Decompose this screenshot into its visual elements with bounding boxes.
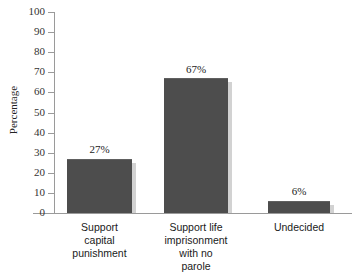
y-tick-mark-30	[48, 153, 54, 154]
category-label-support-life-imprisonment: Support life imprisonment with no parole	[146, 221, 246, 273]
y-tick-label-20: 20	[1, 167, 45, 178]
y-tick-90: 90	[0, 32, 54, 33]
y-tick-0: 0	[0, 213, 54, 214]
bar-support-capital-punishment	[67, 159, 132, 213]
y-tick-80: 80	[0, 52, 54, 53]
y-tick-mark-90	[48, 32, 54, 33]
y-tick-100: 100	[0, 12, 54, 13]
category-label-line: parole	[146, 260, 246, 273]
category-label-line: Undecided	[252, 221, 346, 234]
bar-value-1: 27%	[67, 143, 132, 155]
category-label-line: with no	[146, 247, 246, 260]
y-tick-mark-60	[48, 92, 54, 93]
y-axis-title: Percentage	[7, 55, 19, 165]
y-tick-10: 10	[0, 193, 54, 194]
plot-area: 100 90 80 70 60 50 40 30	[0, 0, 352, 277]
y-tick-mark-10	[48, 193, 54, 194]
y-tick-20: 20	[0, 173, 54, 174]
y-tick-label-10: 10	[1, 187, 45, 198]
category-label-line: capital	[49, 234, 150, 247]
category-label-line: imprisonment	[146, 234, 246, 247]
y-tick-label-90: 90	[1, 26, 45, 37]
bar-chart-screenshot: 100 90 80 70 60 50 40 30	[0, 0, 352, 277]
x-axis-line	[33, 213, 352, 214]
category-label-line: Support life	[146, 221, 246, 234]
y-tick-mark-0	[48, 213, 54, 214]
category-label-line: Support	[49, 221, 150, 234]
y-tick-mark-100	[48, 12, 54, 13]
y-axis-line	[54, 12, 55, 213]
bar-value-3: 6%	[268, 185, 330, 197]
y-tick-mark-40	[48, 133, 54, 134]
y-tick-mark-80	[48, 52, 54, 53]
category-label-line: punishment	[49, 247, 150, 260]
bar-value-2: 67%	[164, 63, 228, 75]
bar-support-life-imprisonment	[164, 78, 228, 213]
category-label-support-capital-punishment: Support capital punishment	[49, 221, 150, 260]
y-tick-mark-50	[48, 113, 54, 114]
category-label-undecided: Undecided	[252, 221, 346, 234]
y-tick-mark-20	[48, 173, 54, 174]
y-tick-mark-70	[48, 72, 54, 73]
y-tick-label-100: 100	[1, 6, 45, 17]
bar-undecided	[268, 201, 330, 213]
y-tick-label-0: 0	[1, 207, 45, 218]
